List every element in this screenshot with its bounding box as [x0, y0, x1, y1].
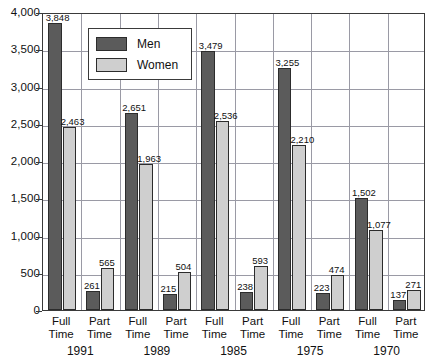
bar-women [101, 268, 115, 310]
x-axis-year-label: 1970 [348, 345, 425, 357]
bar-value-label-men: 223 [314, 283, 330, 293]
bar-women [216, 121, 230, 310]
bar-men [240, 292, 254, 310]
bar-men [86, 291, 100, 310]
legend-item-men: Men [96, 36, 160, 51]
y-axis-tick-label: 1,500 [0, 193, 40, 205]
y-axis-tick-label: 500 [0, 268, 40, 280]
bar-value-label-women: 593 [252, 256, 268, 266]
legend-swatch-women-icon [96, 58, 127, 72]
bar-women [331, 275, 345, 310]
x-axis-group-label: Part Time [381, 315, 431, 340]
gridline-horizontal [43, 126, 424, 127]
bar-value-label-women: 2,536 [214, 111, 238, 121]
legend-label-men: Men [137, 38, 160, 50]
bar-women [139, 164, 153, 310]
bar-value-label-women: 565 [99, 258, 115, 268]
legend-swatch-men-icon [96, 37, 127, 51]
bar-men [355, 198, 369, 310]
bar-value-label-men: 261 [84, 281, 100, 291]
bar-value-label-men: 215 [161, 284, 177, 294]
bar-chart: 05001,0001,5002,0002,5003,0003,5004,000 … [0, 0, 436, 360]
gridline-vertical [81, 14, 82, 310]
legend: Men Women [88, 28, 192, 80]
bar-value-label-men: 2,651 [122, 103, 146, 113]
bar-men [393, 300, 407, 310]
x-axis-year-label: 1991 [42, 345, 119, 357]
gridline-vertical [273, 14, 274, 310]
y-axis-tick-label: 2,500 [0, 119, 40, 131]
gridline-vertical [196, 14, 197, 310]
y-axis-tick-label: 2,000 [0, 156, 40, 168]
gridline-vertical [311, 14, 312, 310]
y-axis-tick-label: 1,000 [0, 231, 40, 243]
bar-value-label-women: 271 [405, 280, 421, 290]
bar-value-label-women: 504 [176, 262, 192, 272]
bar-women [369, 230, 383, 310]
bar-men [201, 51, 215, 310]
bar-men [125, 113, 139, 310]
x-axis-year-label: 1989 [119, 345, 196, 357]
gridline-horizontal [43, 163, 424, 164]
gridline-vertical [349, 14, 350, 310]
x-axis-year-label: 1975 [272, 345, 349, 357]
bar-value-label-men: 3,255 [275, 58, 299, 68]
legend-item-women: Women [96, 57, 178, 72]
bar-women [292, 145, 306, 310]
bar-men [48, 23, 62, 310]
bar-women [63, 127, 77, 310]
bar-value-label-men: 137 [390, 290, 406, 300]
bar-women [178, 272, 192, 310]
bar-men [278, 68, 292, 310]
bar-value-label-men: 3,479 [199, 41, 223, 51]
bar-value-label-men: 1,502 [352, 188, 376, 198]
bar-value-label-women: 1,963 [137, 154, 161, 164]
bar-value-label-women: 1,077 [367, 220, 391, 230]
gridline-vertical [235, 14, 236, 310]
bar-men [316, 293, 330, 310]
y-axis-tick-label: 3,500 [0, 44, 40, 56]
bar-value-label-men: 3,848 [46, 13, 70, 23]
legend-label-women: Women [137, 59, 178, 71]
y-axis-tick-label: 4,000 [0, 7, 40, 19]
bar-women [254, 266, 268, 310]
y-axis-tick-label: 0 [0, 305, 40, 317]
gridline-vertical [388, 14, 389, 310]
bar-men [163, 294, 177, 310]
bar-women [407, 290, 421, 310]
y-axis-tick-label: 3,000 [0, 82, 40, 94]
bar-value-label-women: 474 [329, 265, 345, 275]
x-axis-year-label: 1985 [195, 345, 272, 357]
bar-value-label-women: 2,210 [290, 135, 314, 145]
bar-value-label-women: 2,463 [61, 117, 85, 127]
bar-value-label-men: 238 [237, 282, 253, 292]
gridline-horizontal [43, 89, 424, 90]
y-axis-tick-mark [36, 311, 42, 312]
